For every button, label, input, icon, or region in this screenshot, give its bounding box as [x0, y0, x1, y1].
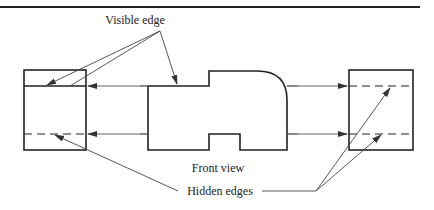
front-view — [148, 71, 287, 150]
hidden-edges-leader — [55, 88, 390, 191]
projection-lines — [88, 86, 347, 134]
right-side-view — [349, 70, 413, 150]
hidden-edges-label: Hidden edges — [187, 184, 253, 198]
visible-edge-leader — [46, 31, 177, 86]
visible-edge-label: Visible edge — [105, 13, 165, 27]
front-view-label: Front view — [192, 161, 245, 175]
diagram-canvas: Visible edge Front view Hidden edges — [0, 0, 434, 210]
